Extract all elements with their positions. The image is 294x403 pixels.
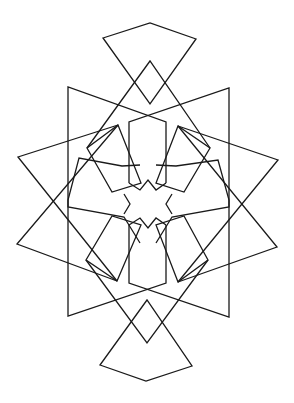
- star-right-notch: [166, 194, 172, 214]
- geometric-star-pattern: [0, 0, 294, 403]
- right-hourglass-lower: [178, 126, 277, 282]
- top-kite: [103, 23, 196, 104]
- bottom-kite: [100, 300, 192, 381]
- pentagon-upper-left: [87, 125, 141, 192]
- right-hourglass-upper: [178, 126, 278, 282]
- right-frame: [129, 88, 229, 317]
- star-left-notch: [124, 194, 130, 214]
- pentagon-lower-right: [156, 216, 208, 282]
